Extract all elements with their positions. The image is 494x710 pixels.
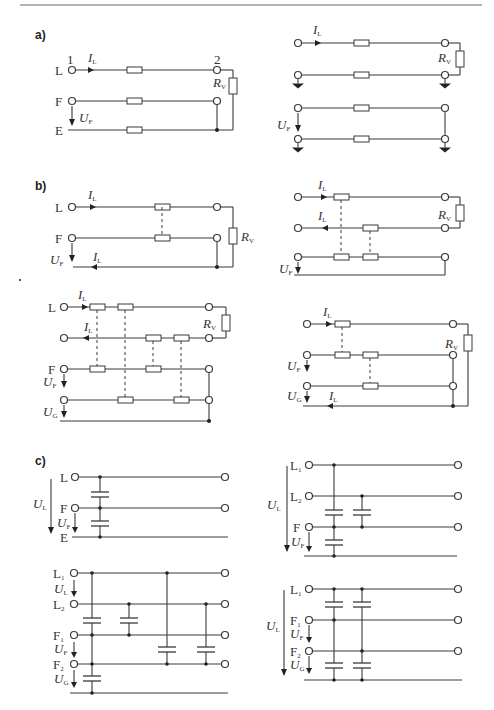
node-label-1: 1 bbox=[67, 52, 74, 67]
terminal bbox=[71, 632, 78, 639]
terminal bbox=[304, 352, 311, 359]
voltage-label: UF bbox=[277, 117, 290, 133]
terminal bbox=[214, 204, 221, 211]
terminal bbox=[442, 40, 449, 47]
terminal bbox=[214, 67, 221, 74]
terminal bbox=[295, 72, 302, 79]
coupled-resistor bbox=[174, 397, 189, 403]
terminal bbox=[306, 524, 313, 531]
terminal bbox=[442, 225, 449, 232]
terminal bbox=[72, 474, 79, 481]
voltage-arrow bbox=[295, 267, 301, 274]
current-label: IL bbox=[317, 177, 327, 193]
voltage-label-l: UL bbox=[54, 581, 68, 597]
terminal bbox=[295, 194, 302, 201]
voltage-arrow bbox=[295, 125, 301, 132]
terminal bbox=[306, 617, 313, 624]
terminal bbox=[442, 105, 449, 112]
diagram-a-left: 1 2 L F E IL RV UF bbox=[55, 50, 237, 138]
ground-icon bbox=[292, 143, 304, 153]
row-label-L: L bbox=[48, 300, 56, 315]
resistor-rv bbox=[229, 228, 237, 244]
row-label-L1: L1 bbox=[290, 582, 302, 598]
load-label: RV bbox=[212, 75, 226, 91]
current-return-label: IL bbox=[92, 249, 102, 265]
terminal bbox=[295, 40, 302, 47]
terminal bbox=[455, 462, 462, 469]
current-return-label: IL bbox=[317, 208, 327, 224]
diagram-c-top-left: L F E UL UF bbox=[33, 470, 229, 545]
terminal bbox=[442, 194, 449, 201]
terminal bbox=[455, 648, 462, 655]
coupled-resistor bbox=[363, 383, 378, 389]
coupled-resistor bbox=[146, 366, 161, 372]
terminal bbox=[61, 335, 68, 342]
voltage-arrow bbox=[69, 119, 75, 126]
terminal bbox=[295, 254, 302, 261]
diagram-b-top-right: RV IL IL UF bbox=[279, 177, 464, 277]
terminal bbox=[455, 493, 462, 500]
terminal bbox=[295, 225, 302, 232]
terminal bbox=[61, 304, 68, 311]
current-label: IL bbox=[77, 287, 87, 303]
row-label-F: F bbox=[55, 231, 62, 246]
current-label: IL bbox=[87, 187, 97, 203]
resistor bbox=[127, 127, 142, 133]
terminal bbox=[69, 204, 76, 211]
terminal bbox=[304, 383, 311, 390]
voltage-arrow-f bbox=[61, 381, 67, 388]
terminal bbox=[69, 67, 76, 74]
row-label-F: F bbox=[60, 501, 67, 516]
diagram-b-top-left: L F RV IL IL UF bbox=[50, 187, 254, 270]
circuit-diagram-figure: a) 1 2 L F E IL RV UF bbox=[0, 0, 494, 710]
terminal bbox=[222, 570, 229, 577]
voltage-arrow-l bbox=[281, 669, 287, 676]
current-return-arrow bbox=[327, 403, 333, 409]
resistor bbox=[127, 67, 142, 73]
row-label-E: E bbox=[60, 530, 68, 545]
load-label: RV bbox=[437, 50, 451, 66]
terminal bbox=[450, 383, 457, 390]
coupled-resistor bbox=[146, 335, 161, 341]
current-return-arrow bbox=[83, 335, 89, 341]
voltage-label-g: UG bbox=[290, 657, 304, 673]
diagram-c-bottom-right: L1 F1 F2 UL bbox=[266, 582, 462, 682]
section-label-b: b) bbox=[35, 179, 46, 193]
voltage-arrow-f bbox=[72, 527, 78, 533]
row-label-F: F bbox=[293, 520, 300, 535]
voltage-label-f: UF bbox=[287, 358, 300, 374]
terminal bbox=[69, 98, 76, 105]
voltage-label: UF bbox=[279, 261, 292, 277]
coupled-resistor bbox=[90, 366, 105, 372]
voltage-arrow-l bbox=[48, 527, 54, 534]
coupled-resistor bbox=[118, 304, 133, 310]
ground-icon bbox=[292, 79, 304, 89]
resistor-rv bbox=[456, 205, 464, 221]
voltage-label-f: UF bbox=[291, 534, 304, 550]
coupled-resistor bbox=[334, 194, 349, 200]
coupled-resistor bbox=[363, 225, 378, 231]
terminal bbox=[450, 321, 457, 328]
coupled-resistor bbox=[363, 254, 378, 260]
resistor bbox=[354, 105, 369, 111]
ground-icon bbox=[439, 143, 451, 153]
terminal bbox=[69, 235, 76, 242]
terminal bbox=[206, 397, 213, 404]
terminal bbox=[295, 136, 302, 143]
coupled-resistor bbox=[118, 397, 133, 403]
voltage-arrow-g bbox=[71, 682, 77, 688]
voltage-arrow-g bbox=[61, 411, 67, 418]
terminal bbox=[214, 98, 221, 105]
terminal bbox=[306, 648, 313, 655]
current-arrow bbox=[82, 304, 88, 310]
resistor bbox=[354, 136, 369, 142]
voltage-arrow bbox=[69, 255, 75, 262]
voltage-arrow-f bbox=[306, 546, 312, 552]
terminal bbox=[222, 632, 229, 639]
terminal bbox=[442, 254, 449, 261]
load-label: RV bbox=[444, 336, 458, 352]
voltage-label-l: UL bbox=[267, 497, 281, 513]
terminal bbox=[71, 601, 78, 608]
terminal bbox=[450, 352, 457, 359]
terminal bbox=[222, 474, 229, 481]
